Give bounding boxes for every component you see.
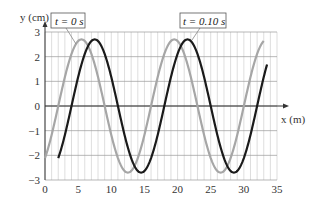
x-tick-label: 35 [272,183,284,195]
y-tick-label: −2 [28,149,40,161]
label-t0-leader [66,28,76,44]
label-t010: t = 0.10 s [180,13,226,40]
x-tick-label: 10 [106,183,118,195]
label-t0-text: t = 0 s [55,15,84,27]
x-tick-label: 25 [205,183,217,195]
x-axis-arrow-icon [283,104,289,109]
y-tick-label: −1 [28,125,40,137]
label-t010-leader [192,28,200,40]
y-axis-label: y (cm) [20,11,49,24]
y-tick-label: 3 [35,26,41,38]
x-axis-label: x (m) [281,113,305,126]
label-t010-text: t = 0.10 s [183,15,225,27]
y-tick-label: −3 [28,174,40,186]
x-tick-label: 5 [75,183,81,195]
x-tick-label: 20 [172,183,184,195]
y-tick-label: 0 [35,100,41,112]
wave-chart: 051015202530353210−1−2−3 y (cm) x (m) t … [0,0,318,204]
y-tick-label: 1 [35,75,41,87]
x-tick-label: 30 [238,183,250,195]
tick-labels: 051015202530353210−1−2−3 [28,26,283,195]
x-tick-label: 0 [42,183,48,195]
y-tick-label: 2 [35,51,41,63]
x-tick-label: 15 [139,183,151,195]
